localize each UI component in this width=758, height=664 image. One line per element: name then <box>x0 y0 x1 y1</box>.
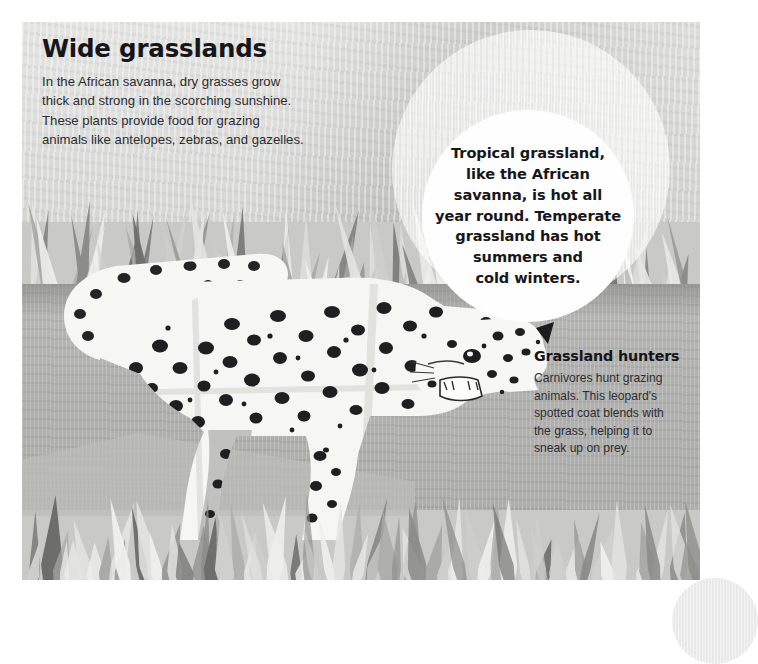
grass-blade <box>638 503 662 580</box>
grass-blade <box>578 512 604 580</box>
grass-blade <box>661 503 696 580</box>
grass-blade <box>564 535 588 580</box>
decorative-corner-circle <box>672 578 758 664</box>
grass-blade <box>568 519 589 580</box>
page-title: Wide grasslands <box>42 36 342 63</box>
grass-blade <box>590 523 624 580</box>
grass-blade <box>595 536 619 580</box>
grass-blade <box>650 507 674 580</box>
grass-blade <box>668 512 693 580</box>
caption-block: Grassland hunters Carnivores hunt grazin… <box>534 348 694 457</box>
grass-blade <box>634 536 658 580</box>
callout-text: Tropical grassland, like the African sav… <box>435 143 621 289</box>
grass-blade <box>609 499 628 580</box>
grass-blade <box>678 500 700 580</box>
callout-circle: Tropical grassland, like the African sav… <box>422 110 634 322</box>
heading-block: Wide grasslands In the African savanna, … <box>42 36 342 150</box>
caption-body-text: Carnivores hunt grazing animals. This le… <box>534 370 694 457</box>
grass-blade <box>676 540 700 580</box>
caption-title: Grassland hunters <box>534 348 694 364</box>
illustration-plate: Tropical grassland, like the African sav… <box>22 22 700 580</box>
grass-blade <box>593 540 615 580</box>
page-body-text: In the African savanna, dry grasses grow… <box>42 72 342 150</box>
grass-blade <box>632 521 659 580</box>
leopard-body <box>98 278 540 540</box>
